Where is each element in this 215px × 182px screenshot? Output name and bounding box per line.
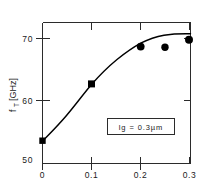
y-tick-label-50: 50 [22, 155, 33, 165]
y-axis-title-subscript: T [13, 103, 20, 107]
x-tick-label-0p1: 0.1 [85, 170, 99, 180]
y-axis-title-unit: [GHz] [8, 78, 18, 101]
chart-figure: 70 60 50 0 0.1 0.2 0.3 f T [GHz] lg = 0.… [0, 0, 215, 182]
y-tick-label-60: 60 [22, 96, 33, 106]
y-tick-label-70: 70 [22, 34, 33, 44]
annotation-box: lg = 0.3µm [108, 119, 175, 135]
x-tick-label-0p2: 0.2 [134, 170, 148, 180]
axis-frame [43, 23, 191, 164]
data-point-2 [137, 43, 145, 51]
data-point-3 [161, 44, 168, 51]
x-tick-label-0p3: 0.3 [183, 170, 197, 180]
data-point-4 [185, 36, 193, 44]
y-axis-title-main: f [8, 109, 18, 112]
data-point-1 [88, 80, 95, 87]
x-tick-label-0: 0 [40, 170, 45, 180]
data-point-0 [39, 138, 45, 144]
chart-plot-area: 70 60 50 0 0.1 0.2 0.3 f T [GHz] lg = 0.… [0, 0, 215, 182]
annotation-label: lg = 0.3µm [119, 123, 163, 132]
y-axis-title: f T [GHz] [8, 78, 20, 112]
